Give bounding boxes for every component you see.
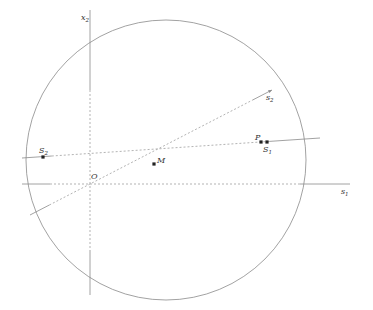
geometry-diagram: s1x2 S2PS1M Os2 <box>0 0 373 310</box>
lines <box>22 90 320 215</box>
point-label-M: M <box>156 156 166 165</box>
circle-outline <box>26 20 306 300</box>
line-diagonal-s2-solid-start <box>30 205 49 215</box>
points: S2PS1M <box>39 133 272 166</box>
line-s2-horizontal-dashed <box>52 141 270 156</box>
axes: s1x2 <box>22 10 350 295</box>
point-label-S1: S1 <box>263 145 272 155</box>
point-label-S2: S2 <box>39 146 48 156</box>
point-M <box>152 162 155 165</box>
point-label-P: P <box>254 133 261 142</box>
x1-axis-label: s1 <box>341 187 349 197</box>
line-s2-horizontal-solid-end <box>269 138 320 141</box>
s2-line-label: s2 <box>266 93 274 103</box>
x2-axis-label: x2 <box>81 13 90 23</box>
line-s2-horizontal-solid-start <box>22 156 52 158</box>
circle <box>26 20 306 300</box>
origin-label: O <box>91 172 98 181</box>
point-S1 <box>265 140 268 143</box>
line-diagonal-s2-dashed <box>49 100 252 205</box>
labels: Os2 <box>91 93 274 181</box>
